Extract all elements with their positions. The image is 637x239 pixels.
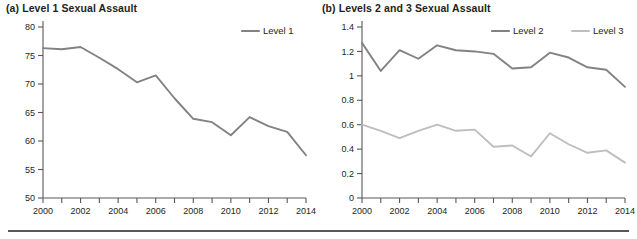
x-axis-tick-label: 2006 [465,206,485,216]
x-axis-tick-label: 2004 [108,206,128,216]
legend-label-level-1: Level 1 [263,25,294,36]
x-axis-tick-label: 2002 [390,206,410,216]
series-line-level-1 [43,47,306,155]
y-axis-tick-label: 1 [349,71,354,81]
x-axis-tick-label: 2002 [71,206,91,216]
series-line-level-2 [362,43,625,87]
x-axis-tick-label: 2014 [615,206,635,216]
x-axis-tick-label: 2010 [540,206,560,216]
y-axis-tick-label: 0.4 [341,144,354,154]
y-axis-tick-label: 65 [25,108,35,118]
y-axis-tick-label: 1.2 [341,47,354,57]
y-axis-tick-label: 55 [25,165,35,175]
x-axis-tick-label: 2008 [183,206,203,216]
x-axis-tick-label: 2006 [146,206,166,216]
y-axis-tick-label: 75 [25,51,35,61]
y-axis-tick-label: 0.6 [341,120,354,130]
series-line-level-3 [362,125,625,163]
chart-b-plot: 00.20.40.60.811.21.420002002200420062008… [318,0,637,222]
y-axis-tick-label: 1.4 [341,22,354,32]
figure-container: (a) Level 1 Sexual Assault 5055606570758… [0,0,637,239]
y-axis-tick-label: 70 [25,79,35,89]
chart-panel-b: (b) Levels 2 and 3 Sexual Assault 00.20.… [318,0,637,222]
x-axis-tick-label: 2010 [221,206,241,216]
legend-label-level-3: Level 3 [593,25,624,36]
y-axis-tick-label: 50 [25,193,35,203]
x-axis-tick-label: 2000 [352,206,372,216]
chart-a-plot: 5055606570758020002002200420062008201020… [0,0,318,222]
y-axis-tick-label: 80 [25,22,35,32]
y-axis-tick-label: 0.2 [341,169,354,179]
x-axis-tick-label: 2012 [577,206,597,216]
bottom-divider [8,230,629,232]
y-axis-tick-label: 60 [25,136,35,146]
x-axis-tick-label: 2000 [33,206,53,216]
y-axis-tick-label: 0.8 [341,95,354,105]
x-axis-tick-label: 2014 [296,206,316,216]
panels-row: (a) Level 1 Sexual Assault 5055606570758… [0,0,637,222]
chart-panel-a: (a) Level 1 Sexual Assault 5055606570758… [0,0,318,222]
legend-label-level-2: Level 2 [513,25,544,36]
x-axis-tick-label: 2004 [427,206,447,216]
x-axis-tick-label: 2012 [258,206,278,216]
y-axis-tick-label: 0 [349,193,354,203]
x-axis-tick-label: 2008 [502,206,522,216]
